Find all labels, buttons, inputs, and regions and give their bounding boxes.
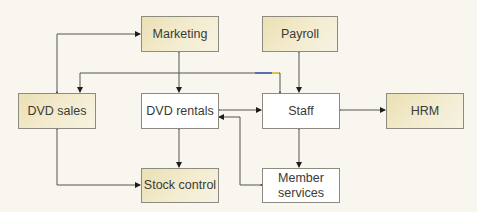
edge-staff-dvdsales xyxy=(80,73,280,92)
edge-dvdsales-stock xyxy=(57,129,140,185)
node-member-services[interactable]: Member services xyxy=(262,168,340,203)
edge-dvdsales-marketing xyxy=(57,34,140,92)
node-dvd-sales[interactable]: DVD sales xyxy=(18,93,96,129)
edge-member-dvdrentals xyxy=(219,117,261,185)
node-label-line2: services xyxy=(278,186,324,201)
node-label: Payroll xyxy=(281,27,319,42)
node-dvd-rentals[interactable]: DVD rentals xyxy=(141,93,219,129)
node-payroll[interactable]: Payroll xyxy=(262,16,338,52)
node-staff[interactable]: Staff xyxy=(262,93,340,129)
node-stock-control[interactable]: Stock control xyxy=(141,168,219,203)
node-marketing[interactable]: Marketing xyxy=(141,16,219,52)
node-label: Marketing xyxy=(153,27,208,42)
node-label: DVD sales xyxy=(27,104,86,119)
node-label: DVD rentals xyxy=(146,104,213,119)
node-label: Staff xyxy=(288,104,313,119)
node-label: HRM xyxy=(411,104,439,119)
node-hrm[interactable]: HRM xyxy=(386,93,464,129)
diagram-canvas: Marketing Payroll DVD sales DVD rentals … xyxy=(0,0,477,212)
node-label: Stock control xyxy=(144,178,216,193)
node-label-line1: Member xyxy=(278,171,324,186)
